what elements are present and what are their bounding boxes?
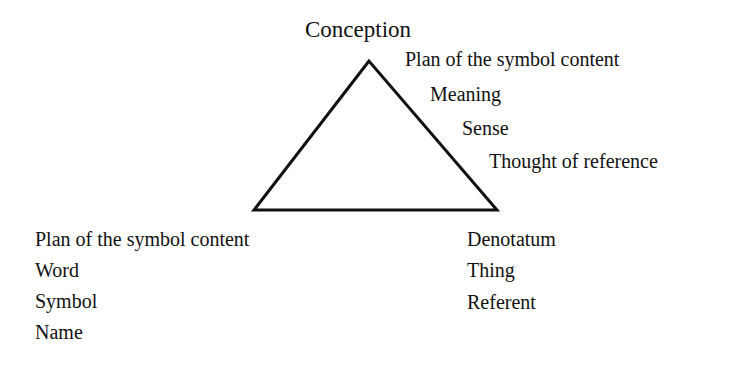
apex-label-meaning: Meaning bbox=[430, 84, 501, 104]
left-label-symbol: Symbol bbox=[35, 291, 97, 311]
left-label-plan: Plan of the symbol content bbox=[35, 229, 249, 249]
right-label-denotatum: Denotatum bbox=[467, 229, 556, 249]
left-label-name: Name bbox=[35, 322, 83, 342]
left-label-word: Word bbox=[35, 260, 79, 280]
apex-title: Conception bbox=[305, 20, 411, 40]
right-label-thing: Thing bbox=[467, 260, 515, 280]
apex-label-plan: Plan of the symbol content bbox=[405, 49, 619, 69]
triangle bbox=[0, 0, 750, 365]
right-label-referent: Referent bbox=[467, 292, 536, 312]
apex-label-sense: Sense bbox=[462, 118, 509, 138]
apex-label-thought: Thought of reference bbox=[489, 151, 658, 171]
